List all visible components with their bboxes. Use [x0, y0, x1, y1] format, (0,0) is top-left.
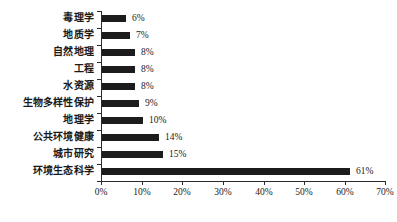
x-axis-tick-label: 0% — [95, 187, 108, 197]
y-axis-tick — [97, 147, 101, 148]
bar — [102, 83, 135, 90]
bar-value-label: 8% — [141, 65, 154, 74]
bar — [102, 49, 135, 56]
bar-value-label: 8% — [141, 48, 154, 57]
category-label: 毒理学 — [0, 13, 94, 23]
y-axis-tick — [97, 28, 101, 29]
y-axis-tick — [97, 45, 101, 46]
category-axis-labels: 毒理学 地质学 自然地理 工程 水资源 生物多样性保护 地理学 公共环境健康 城… — [0, 0, 94, 222]
y-axis-tick — [97, 164, 101, 165]
category-label: 地理学 — [0, 115, 94, 125]
bar — [102, 66, 135, 73]
x-axis-tick-label: 70% — [376, 187, 393, 197]
bar-value-label: 61% — [356, 167, 373, 176]
category-label: 工程 — [0, 64, 94, 74]
bar-value-label: 15% — [169, 150, 186, 159]
category-label: 地质学 — [0, 30, 94, 40]
x-axis-tick-label: 30% — [214, 187, 231, 197]
x-axis-tick-label: 10% — [133, 187, 150, 197]
x-axis-tick — [182, 181, 183, 185]
y-axis-tick — [97, 79, 101, 80]
y-axis-tick — [97, 11, 101, 12]
bar — [102, 15, 126, 22]
category-label: 公共环境健康 — [0, 132, 94, 142]
y-axis-tick — [97, 130, 101, 131]
x-axis-line — [101, 181, 386, 182]
category-label: 自然地理 — [0, 47, 94, 57]
y-axis-tick — [97, 62, 101, 63]
bar-value-label: 9% — [145, 99, 158, 108]
x-axis-tick-label: 60% — [336, 187, 353, 197]
bar-value-label: 8% — [141, 82, 154, 91]
y-axis-tick — [97, 113, 101, 114]
x-axis-tick-label: 20% — [173, 187, 190, 197]
bar-value-label: 6% — [132, 14, 145, 23]
bar-chart: 毒理学 地质学 自然地理 工程 水资源 生物多样性保护 地理学 公共环境健康 城… — [0, 0, 397, 222]
bar — [102, 100, 139, 107]
category-label: 水资源 — [0, 81, 94, 91]
x-axis-tick — [345, 181, 346, 185]
bar — [102, 32, 130, 39]
bar-value-label: 7% — [136, 31, 149, 40]
x-axis-tick — [304, 181, 305, 185]
category-label: 环境生态科学 — [0, 166, 94, 176]
bar — [102, 168, 350, 175]
x-axis-tick — [264, 181, 265, 185]
bar — [102, 134, 159, 141]
x-axis-tick — [385, 181, 386, 185]
bar — [102, 151, 163, 158]
x-axis-tick — [223, 181, 224, 185]
x-axis-tick — [101, 181, 102, 185]
x-axis-tick — [142, 181, 143, 185]
plot-area: 6% 7% 8% 8% 8% 9% 10% 14% 15% 61% 0% 10%… — [101, 11, 385, 181]
category-label: 城市研究 — [0, 149, 94, 159]
x-axis-tick-label: 40% — [255, 187, 272, 197]
bar-value-label: 14% — [165, 133, 182, 142]
x-axis-tick-label: 50% — [295, 187, 312, 197]
category-label: 生物多样性保护 — [0, 98, 94, 108]
bar — [102, 117, 143, 124]
bar-value-label: 10% — [149, 116, 166, 125]
y-axis-tick — [97, 96, 101, 97]
